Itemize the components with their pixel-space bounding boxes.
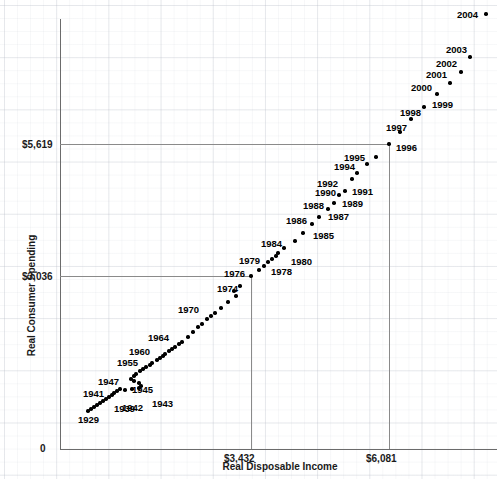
data-point-label: 1974 [217,284,238,294]
y-tick-label-5619: $5,619 [22,139,53,150]
data-point [249,274,252,277]
reference-line-horizontal-5619 [60,144,390,145]
data-point [150,361,153,364]
data-point [282,246,285,249]
data-point [234,294,237,297]
data-point-label: 1991 [352,187,373,197]
data-point [134,372,137,375]
data-point [270,257,273,260]
data-point [196,325,199,328]
data-point [374,155,377,158]
data-point-label: 1989 [342,199,363,209]
y-axis-title: Real Consumer Spending [26,221,37,371]
data-point [484,12,487,15]
x-axis-title: Real Disposable Income [140,461,420,472]
data-point-label: 1987 [328,212,349,222]
data-point [310,222,313,225]
data-point [448,81,451,84]
data-point [118,387,121,390]
data-point-label: 1995 [344,153,365,163]
data-point [209,314,212,317]
data-point [365,162,368,165]
data-point-label: 1941 [83,389,104,399]
data-point-label: 1985 [313,231,334,241]
data-point [144,365,147,368]
data-point-label: 1984 [261,239,282,249]
y-axis-line [60,19,61,450]
data-point [180,340,183,343]
data-point-label: 1964 [148,333,169,343]
data-point [266,260,269,263]
data-point [219,306,222,309]
data-point [191,330,194,333]
data-point-label: 1990 [315,188,336,198]
data-point [355,171,358,174]
data-point-label: 2004 [457,10,478,20]
data-point [173,345,176,348]
data-point-label: 1980 [291,257,312,267]
data-point-label: 1945 [132,385,153,395]
plot-area: 0 $3,036 $5,619 $3,432 $6,081 Real Consu… [0,0,497,479]
data-point [350,177,353,180]
data-point-label: 1929 [78,415,99,425]
data-point-label: 1943 [152,399,173,409]
x-axis-line [60,449,497,450]
data-point-label: 1998 [400,108,421,118]
data-point [459,70,462,73]
data-point-label: 1988 [303,201,324,211]
data-point-label: 1970 [178,305,199,315]
data-point [422,105,425,108]
data-point-label: 1994 [334,162,355,172]
data-point [262,264,265,267]
data-point [387,142,390,145]
data-point [468,55,471,58]
data-point [317,215,320,218]
data-point-label: 2000 [411,83,432,93]
data-point-label: 1960 [129,347,150,357]
data-point-label: 1942 [122,403,143,413]
data-point [132,379,135,382]
data-point-label: 1976 [224,269,245,279]
data-point [332,201,335,204]
reference-line-vertical-6081 [389,144,390,449]
data-point-label: 1955 [117,358,138,368]
data-point [123,388,126,391]
data-point-label: 1986 [286,216,307,226]
data-point-label: 2003 [446,45,467,55]
data-point-label: 1997 [386,123,407,133]
data-point [293,239,296,242]
data-point [435,92,438,95]
data-point-label: 1947 [98,377,119,387]
y-tick-label-0: 0 [40,443,46,454]
data-point [213,311,216,314]
data-point [276,251,279,254]
data-point [326,207,329,210]
data-point [238,284,241,287]
data-point [186,335,189,338]
data-point-label: 1978 [271,267,292,277]
data-point-label: 1992 [317,179,338,189]
data-point-label: 1999 [432,100,453,110]
data-point-label: 1979 [239,256,260,266]
scatter-chart: 0 $3,036 $5,619 $3,432 $6,081 Real Consu… [0,0,497,479]
data-point-label: 2002 [436,59,457,69]
data-point [257,268,260,271]
data-point [301,231,304,234]
data-point [337,193,340,196]
data-point [226,300,229,303]
data-point-label: 1996 [396,143,417,153]
data-point [200,322,203,325]
data-point [274,254,277,257]
data-point [129,377,132,380]
data-point [205,317,208,320]
reference-line-vertical-3432 [251,276,252,449]
data-point [343,189,346,192]
data-point [163,352,166,355]
data-point-label: 2001 [426,70,447,80]
